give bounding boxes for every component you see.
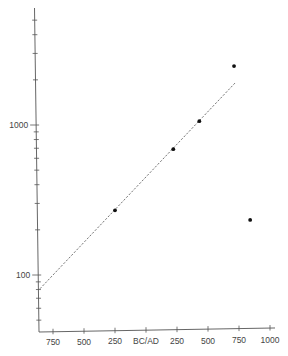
data-point (248, 218, 252, 222)
x-axis-line (39, 328, 275, 332)
x-tick-label: 1000 (261, 335, 280, 345)
data-points (113, 64, 252, 222)
x-tick-label: 750 (46, 337, 60, 347)
data-point (232, 64, 236, 68)
x-tick-label: 250 (170, 336, 184, 346)
data-point (197, 119, 201, 123)
data-point (113, 208, 117, 212)
x-tick-label: 250 (108, 336, 122, 346)
data-point (171, 147, 175, 151)
trend-line-segment (40, 83, 235, 289)
y-axis: 1001000 (9, 8, 41, 332)
y-tick-label: 100 (16, 270, 30, 280)
x-tick-label: 750 (232, 335, 246, 345)
y-tick-label: 1000 (9, 120, 28, 130)
chart: 1001000 750500250BC/AD2505007501000 (0, 0, 288, 356)
x-tick-label: BC/AD (133, 336, 159, 346)
x-tick-label: 500 (77, 337, 91, 347)
trend-line (40, 83, 235, 289)
x-axis: 750500250BC/AD2505007501000 (39, 325, 280, 347)
x-tick-label: 500 (201, 336, 215, 346)
